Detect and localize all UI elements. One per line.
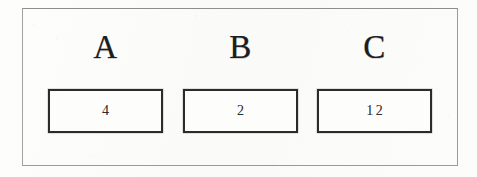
value-text-b: 2 [235,103,247,119]
variable-label-c: C [317,27,432,67]
variable-label-a: A [48,27,163,67]
value-text-a: 4 [100,103,112,119]
value-box-c[interactable]: 12 [317,89,432,133]
value-box-a[interactable]: 4 [48,89,163,133]
diagram-canvas: A 4 B 2 C 12 [0,0,477,177]
variable-label-b: B [183,27,298,67]
value-box-b[interactable]: 2 [183,89,298,133]
value-text-c: 12 [364,103,386,119]
